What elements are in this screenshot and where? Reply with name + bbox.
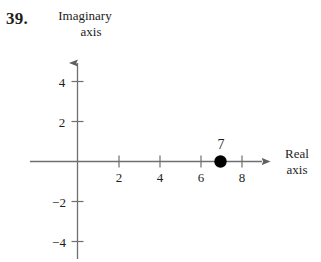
plot-area [0, 0, 321, 262]
complex-plane-figure: 39. Imaginary axis Real axis [0, 0, 321, 262]
tick-label-y-minus-4: −4 [52, 236, 66, 249]
tick-label-x-4: 4 [157, 171, 164, 184]
tick-label-y-minus-2: −2 [52, 196, 66, 209]
point-label-7: 7 [218, 138, 225, 152]
tick-label-y-4: 4 [59, 76, 66, 89]
tick-label-x-8: 8 [239, 171, 246, 184]
plotted-point [214, 155, 226, 167]
axes-group [30, 63, 262, 259]
tick-label-x-6: 6 [198, 171, 205, 184]
tick-label-y-2: 2 [59, 116, 66, 129]
tick-label-x-2: 2 [116, 171, 123, 184]
